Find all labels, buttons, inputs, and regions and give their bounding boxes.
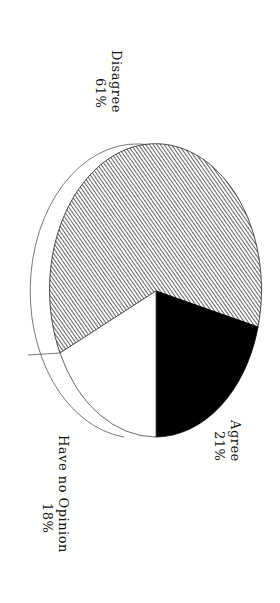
label-disagree: Disagree 61% — [92, 50, 124, 113]
label-no-opinion-pct: 18% — [39, 435, 55, 553]
label-agree-pct: 21% — [211, 420, 227, 462]
label-disagree-pct: 61% — [92, 50, 108, 113]
label-agree: Agree 21% — [211, 420, 243, 462]
label-no-opinion: Have no Opinion 18% — [39, 435, 71, 553]
label-no-opinion-name: Have no Opinion — [55, 435, 71, 553]
label-agree-name: Agree — [227, 420, 243, 462]
label-disagree-name: Disagree — [108, 50, 124, 113]
